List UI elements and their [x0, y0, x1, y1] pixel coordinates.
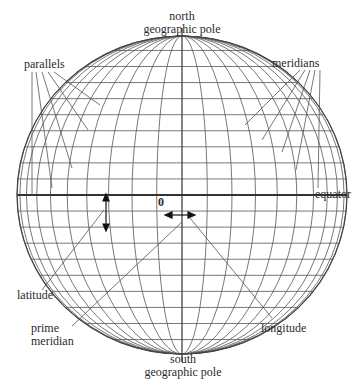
leader-line: [318, 70, 320, 188]
meridians-label: meridians: [272, 57, 319, 70]
south-pole-label: south geographic pole: [131, 353, 235, 379]
origin-label: 0: [158, 196, 164, 209]
prime-meridian-label-line2: meridian: [31, 335, 74, 348]
longitude-label: longitude: [261, 322, 306, 335]
leader-line: [42, 72, 72, 168]
leader-line: [245, 70, 300, 125]
leader-line: [54, 72, 100, 105]
prime-meridian-label: prime meridian: [31, 322, 74, 348]
south-pole-label-line2: geographic pole: [131, 366, 235, 379]
parallels-label: parallels: [24, 58, 65, 71]
latitude-label: latitude: [17, 289, 53, 302]
longitude-arrow: [165, 212, 195, 218]
leader-line: [42, 210, 104, 290]
north-pole-label-line2: geographic pole: [130, 23, 234, 36]
latitude-arrow: [103, 194, 109, 231]
leader-line: [72, 222, 182, 326]
north-pole-label: north geographic pole: [130, 10, 234, 36]
equator-label: equator: [315, 188, 351, 201]
leader-line: [262, 70, 305, 140]
